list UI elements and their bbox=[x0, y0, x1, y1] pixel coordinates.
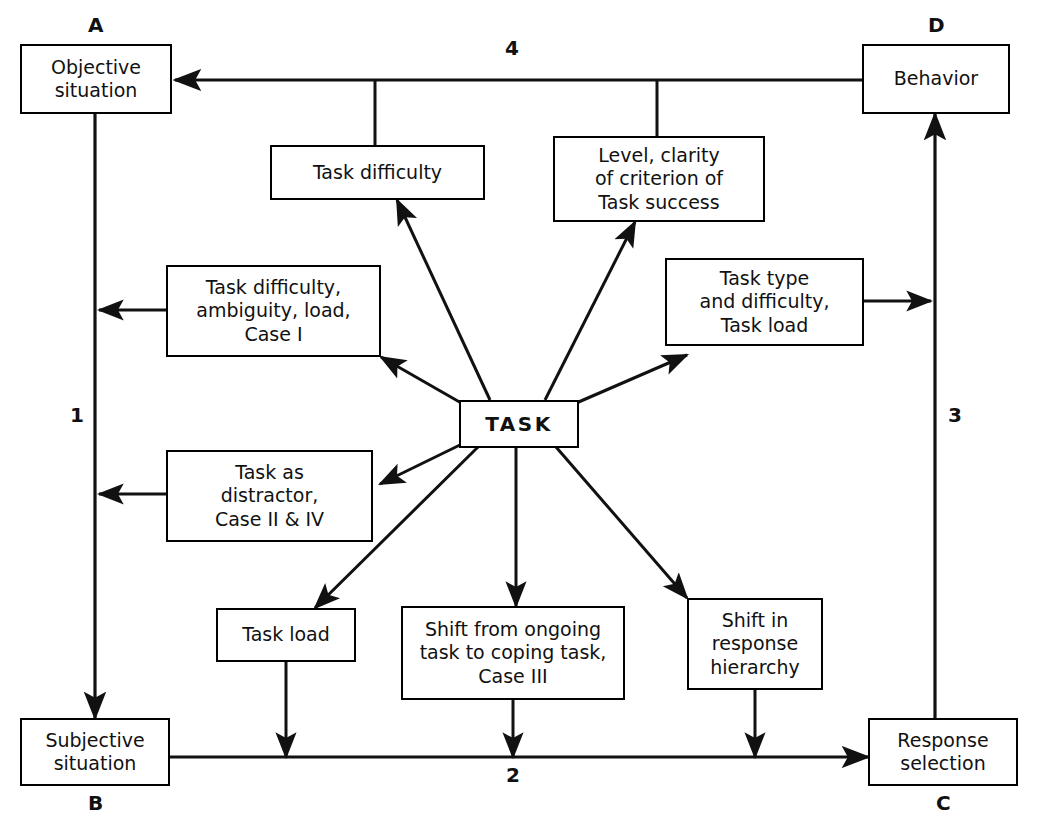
corner-tag-d: D bbox=[928, 13, 945, 37]
node-task-center-label: TASK bbox=[479, 412, 558, 436]
edge-number-2: 2 bbox=[506, 763, 520, 787]
node-task-difficulty-label: Task difficulty bbox=[307, 161, 448, 184]
node-subjective-situation-label: Subjective situation bbox=[39, 729, 150, 775]
corner-tag-c: C bbox=[936, 791, 951, 815]
node-task-center[interactable]: TASK bbox=[459, 400, 579, 448]
node-case-one[interactable]: Task difficulty, ambiguity, load, Case I bbox=[166, 265, 381, 357]
node-task-as-distractor-label: Task as distractor, Case II & IV bbox=[209, 461, 330, 531]
edge-number-1: 1 bbox=[70, 403, 84, 427]
node-case-three[interactable]: Shift from ongoing task to coping task, … bbox=[401, 606, 625, 700]
edge-task-to-criterion bbox=[545, 222, 635, 400]
diagram-canvas: Objective situation A Subjective situati… bbox=[0, 0, 1038, 837]
node-task-type-and-difficulty-label: Task type and difficulty, Task load bbox=[694, 267, 836, 337]
edge-number-4: 4 bbox=[505, 36, 519, 60]
edge-task-to-distractor bbox=[380, 443, 464, 484]
edge-number-3: 3 bbox=[948, 403, 962, 427]
node-task-difficulty[interactable]: Task difficulty bbox=[270, 145, 485, 200]
node-criterion-of-task-success-label: Level, clarity of criterion of Task succ… bbox=[589, 144, 729, 214]
node-objective-situation[interactable]: Objective situation bbox=[20, 44, 172, 114]
node-shift-in-response-hierarchy[interactable]: Shift in response hierarchy bbox=[687, 598, 823, 690]
node-subjective-situation[interactable]: Subjective situation bbox=[20, 718, 170, 786]
edge-task-to-hierarchy bbox=[556, 447, 687, 598]
corner-tag-a: A bbox=[88, 13, 103, 37]
node-behavior-label: Behavior bbox=[888, 67, 984, 90]
corner-tag-b: B bbox=[88, 791, 103, 815]
edge-task-to-task-difficulty bbox=[397, 200, 490, 400]
node-task-type-and-difficulty[interactable]: Task type and difficulty, Task load bbox=[665, 258, 864, 346]
node-task-as-distractor[interactable]: Task as distractor, Case II & IV bbox=[166, 450, 373, 542]
node-response-selection-label: Response selection bbox=[891, 729, 994, 775]
node-behavior[interactable]: Behavior bbox=[862, 44, 1010, 114]
node-criterion-of-task-success[interactable]: Level, clarity of criterion of Task succ… bbox=[553, 136, 765, 222]
node-response-selection[interactable]: Response selection bbox=[868, 718, 1018, 786]
node-case-one-label: Task difficulty, ambiguity, load, Case I bbox=[190, 276, 356, 346]
node-task-load[interactable]: Task load bbox=[216, 608, 356, 662]
node-shift-in-response-hierarchy-label: Shift in response hierarchy bbox=[704, 609, 806, 679]
node-task-load-label: Task load bbox=[236, 623, 336, 646]
node-case-three-label: Shift from ongoing task to coping task, … bbox=[414, 618, 613, 688]
edge-task-to-case1 bbox=[381, 357, 463, 404]
edge-task-to-tasktype bbox=[574, 355, 687, 404]
node-objective-situation-label: Objective situation bbox=[45, 56, 147, 102]
